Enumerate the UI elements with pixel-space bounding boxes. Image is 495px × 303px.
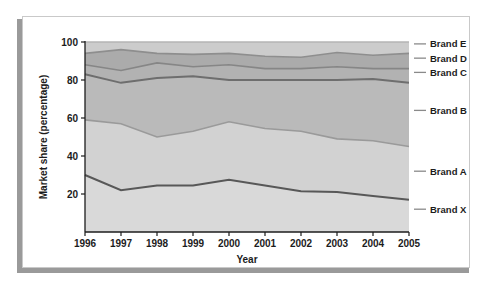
x-tick-label: 2004 <box>362 238 385 249</box>
legend-label: Brand D <box>430 53 467 64</box>
legend-label: Brand C <box>430 67 467 78</box>
y-tick-label: 40 <box>67 151 79 162</box>
legend-label: Brand B <box>430 105 467 116</box>
x-tick-label: 1999 <box>182 238 205 249</box>
y-tick-label: 80 <box>67 75 79 86</box>
x-tick-label: 2003 <box>326 238 349 249</box>
legend-label: Brand X <box>430 204 467 215</box>
y-axis-ticks: 20406080100 <box>61 37 85 200</box>
x-tick-label: 1996 <box>74 238 97 249</box>
x-axis-ticks: 1996199719981999200020012002200320042005 <box>74 232 421 249</box>
legend-label: Brand A <box>430 166 467 177</box>
x-tick-label: 2001 <box>254 238 277 249</box>
y-tick-label: 20 <box>67 189 79 200</box>
x-tick-label: 2000 <box>218 238 241 249</box>
x-tick-label: 2005 <box>398 238 421 249</box>
x-axis-label: Year <box>236 254 257 265</box>
x-tick-label: 2002 <box>290 238 313 249</box>
x-tick-label: 1997 <box>110 238 133 249</box>
chart-page: 20406080100 1996199719981999200020012002… <box>0 0 495 303</box>
legend-label: Brand E <box>430 38 466 49</box>
area-bands <box>85 42 409 232</box>
y-tick-label: 100 <box>61 37 78 48</box>
y-tick-label: 60 <box>67 113 79 124</box>
x-tick-label: 1998 <box>146 238 169 249</box>
y-axis-label: Market share (percentage) <box>38 75 49 200</box>
legend-group: Brand EBrand DBrand CBrand BBrand ABrand… <box>414 38 467 214</box>
stacked-area-chart: 20406080100 1996199719981999200020012002… <box>0 0 495 303</box>
